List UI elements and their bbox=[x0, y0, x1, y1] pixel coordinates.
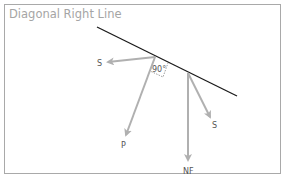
vector-s-right bbox=[188, 73, 210, 117]
right-angle-label: 90° bbox=[152, 65, 166, 74]
label-p: P bbox=[121, 141, 126, 150]
vector-s-left bbox=[108, 57, 155, 62]
label-s-right: S bbox=[212, 121, 217, 130]
force-diagram: 90° S P NF S bbox=[0, 0, 288, 180]
label-nf: NF bbox=[183, 167, 194, 176]
label-s-left: S bbox=[97, 59, 102, 68]
vector-p bbox=[126, 57, 155, 135]
